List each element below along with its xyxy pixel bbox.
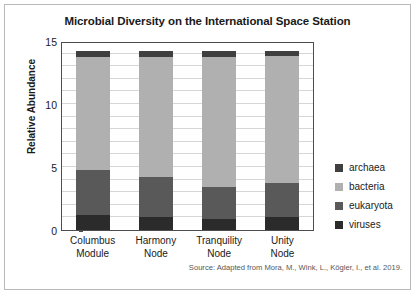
legend-swatch-icon [335, 183, 343, 191]
plot-area [61, 42, 314, 231]
y-tick-label: 15 [31, 36, 57, 48]
bar-segment-bacteria[interactable] [265, 56, 299, 183]
y-axis-tick-labels: 051015 [27, 42, 57, 231]
bar-segment-eukaryota[interactable] [76, 170, 110, 215]
legend-label: viruses [349, 219, 381, 230]
bar-segment-bacteria[interactable] [202, 57, 236, 187]
bar-segment-viruses[interactable] [76, 215, 110, 230]
source-note: Source: Adapted from Mora, M., Wink, L.,… [189, 263, 402, 272]
bar-segment-viruses[interactable] [265, 217, 299, 230]
bar-segment-eukaryota[interactable] [265, 183, 299, 217]
y-tick-mark [79, 231, 83, 232]
bar-stack[interactable] [265, 43, 299, 230]
legend-label: bacteria [349, 181, 385, 192]
bar-segment-bacteria[interactable] [76, 57, 110, 169]
legend-item[interactable]: viruses [335, 217, 393, 232]
chart-figure: Microbial Diversity on the International… [4, 4, 411, 290]
chart-legend: archaeabacteriaeukaryotaviruses [335, 160, 393, 236]
bar-segment-bacteria[interactable] [139, 57, 173, 177]
bar-segment-viruses[interactable] [139, 217, 173, 230]
y-tick-label: 5 [31, 162, 57, 174]
bar-segment-eukaryota[interactable] [139, 177, 173, 217]
bar-segment-viruses[interactable] [202, 219, 236, 230]
x-tick-label: HarmonyNode [126, 235, 186, 260]
legend-item[interactable]: eukaryota [335, 198, 393, 213]
y-tick-label: 10 [31, 99, 57, 111]
bar-stack[interactable] [202, 43, 236, 230]
legend-swatch-icon [335, 164, 343, 172]
legend-item[interactable]: archaea [335, 160, 393, 175]
x-tick-label: TranquilityNode [189, 235, 249, 260]
bar-stack[interactable] [76, 43, 110, 230]
legend-item[interactable]: bacteria [335, 179, 393, 194]
bar-stack[interactable] [139, 43, 173, 230]
bar-segment-eukaryota[interactable] [202, 187, 236, 219]
legend-label: eukaryota [349, 200, 393, 211]
legend-label: archaea [349, 162, 385, 173]
legend-swatch-icon [335, 202, 343, 210]
x-tick-label: ColumbusModule [63, 235, 123, 260]
bar-group [62, 43, 313, 230]
legend-swatch-icon [335, 221, 343, 229]
x-axis-tick-labels: ColumbusModuleHarmonyNodeTranquilityNode… [61, 235, 314, 260]
x-tick-label: UnityNode [252, 235, 312, 260]
y-tick-label: 0 [31, 225, 57, 237]
chart-title: Microbial Diversity on the International… [5, 15, 410, 27]
